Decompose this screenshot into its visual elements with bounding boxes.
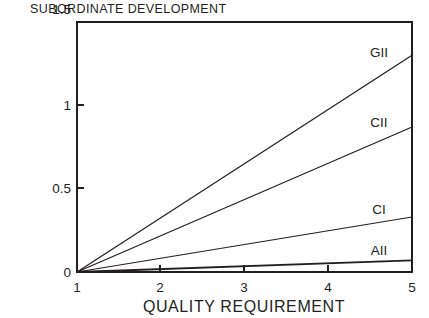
series-label-aii: AII <box>371 243 388 258</box>
series-label-gii: GII <box>370 45 388 60</box>
series-label-ci: CI <box>372 202 386 217</box>
xtick-label-2: 2 <box>156 280 164 295</box>
x-axis-label: QUALITY REQUIREMENT <box>143 298 345 315</box>
series-line-gii <box>77 55 412 272</box>
xtick-label-4: 4 <box>324 280 332 295</box>
xtick-label-1: 1 <box>73 280 81 295</box>
ytick-label-0-5: 0.5 <box>52 181 71 196</box>
series-label-cii: CII <box>370 115 387 130</box>
xtick-label-5: 5 <box>408 280 416 295</box>
xtick-label-3: 3 <box>240 280 248 295</box>
plot-frame <box>77 22 412 272</box>
ytick-label-1-5: 1.5 <box>52 2 71 17</box>
series-line-ci <box>77 217 412 272</box>
line-chart: SUBORDINATE DEVELOPMENT 1.5 1 0.5 0 1 2 … <box>0 0 429 318</box>
chart-container: SUBORDINATE DEVELOPMENT 1.5 1 0.5 0 1 2 … <box>0 0 429 318</box>
ytick-label-0: 0 <box>63 265 71 280</box>
series-line-cii <box>77 127 412 272</box>
ytick-label-1: 1 <box>63 98 71 113</box>
